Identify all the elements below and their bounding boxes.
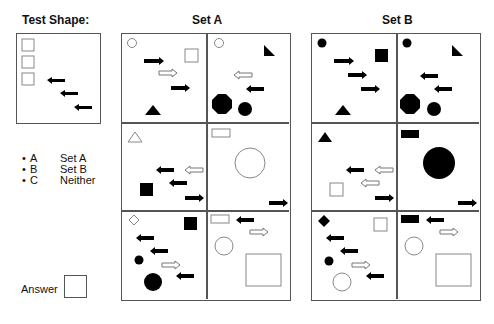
option-c[interactable]: •CNeither	[22, 175, 95, 186]
arrow-left-icon	[60, 90, 78, 97]
test-shape-drawing	[17, 34, 102, 125]
answer-box[interactable]	[64, 275, 87, 298]
test-shape-panel	[16, 33, 101, 124]
set-b-grid	[311, 33, 481, 301]
test-shape-title: Test Shape:	[22, 13, 89, 27]
answer-label: Answer	[21, 283, 58, 295]
arrow-left-icon	[74, 104, 92, 111]
set-b-drawing	[312, 34, 482, 302]
answer-options: •ASet A •BSet B •CNeither	[22, 153, 95, 186]
set-b-title: Set B	[382, 13, 413, 27]
set-a-drawing	[122, 34, 292, 302]
set-a-title: Set A	[192, 13, 222, 27]
arrow-left-icon	[47, 77, 65, 84]
set-a-grid	[121, 33, 291, 301]
